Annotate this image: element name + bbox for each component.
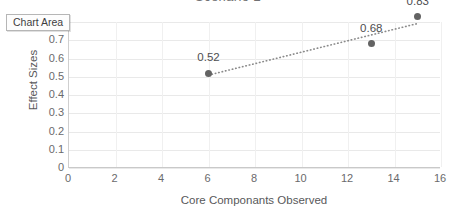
y-axis-tick-label: 0.6 [30,53,64,64]
x-axis-tick-label: 8 [242,172,266,184]
x-axis-title: Core Componants Observed [68,194,440,206]
x-axis-tick-label: 10 [289,172,313,184]
data-point-label: 0.52 [197,51,219,63]
gridline-horizontal [69,168,440,169]
y-axis-tick-label: 0.5 [30,71,64,82]
data-point-marker[interactable] [414,13,421,20]
x-axis-tick-label: 14 [382,172,406,184]
data-point-label: 0.83 [407,0,429,7]
plot-area: 0.520.680.83 [68,22,440,168]
y-axis-tick-label: 0.7 [30,34,64,45]
data-point-label: 0.68 [360,22,382,34]
x-axis-tick-label: 0 [56,172,80,184]
data-point-marker[interactable] [205,70,212,77]
chart-area-tooltip: Chart Area [6,14,70,31]
x-axis-tick-label: 2 [103,172,127,184]
y-axis-tick-label: 0.1 [30,144,64,155]
chart-title: Scenario 2 [0,0,456,4]
chart-screenshot: Scenario 2 Chart Area Effect Sizes Core … [0,0,456,218]
y-axis-tick-label: 0.2 [30,126,64,137]
y-axis-tick-label: 0.3 [30,107,64,118]
y-axis-tick-label: 0.4 [30,89,64,100]
x-axis-tick-label: 16 [428,172,452,184]
data-point-marker[interactable] [368,40,375,47]
x-axis-tick-label: 4 [149,172,173,184]
gridline-vertical [441,22,442,167]
x-axis-tick-label: 12 [335,172,359,184]
data-points: 0.520.680.83 [69,22,440,167]
x-axis-tick-label: 6 [196,172,220,184]
